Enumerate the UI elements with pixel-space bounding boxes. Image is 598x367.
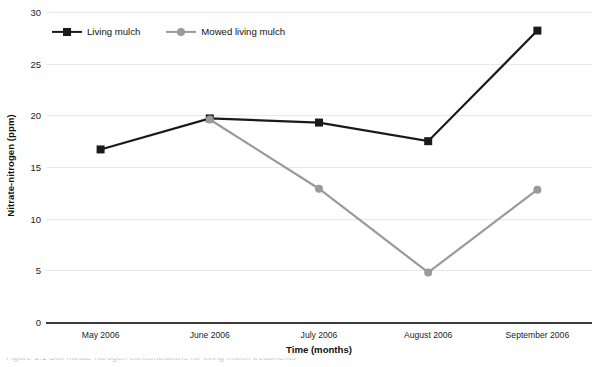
y-axis-title: Nitrate-nitrogen (ppm) — [0, 0, 20, 330]
data-point-circle-marker — [206, 115, 214, 123]
plot-area: 051015202530 May 2006June 2006July 2006A… — [46, 12, 592, 322]
x-tick-label: August 2006 — [404, 330, 452, 340]
legend-square-marker-icon — [63, 28, 71, 36]
x-tick-label: May 2006 — [82, 330, 120, 340]
x-tick-label: June 2006 — [190, 330, 230, 340]
y-tick-label: 25 — [30, 58, 41, 69]
y-tick-label: 0 — [36, 317, 41, 328]
chart-legend: Living mulchMowed living mulch — [52, 26, 285, 37]
legend-entry[interactable]: Mowed living mulch — [166, 26, 285, 37]
legend-circle-marker-icon — [177, 28, 185, 36]
data-point-square-marker — [315, 119, 323, 127]
legend-swatch-icon — [166, 26, 196, 37]
data-point-circle-marker — [424, 268, 432, 276]
series-line — [210, 119, 538, 272]
y-tick-label: 20 — [30, 110, 41, 121]
data-point-square-marker — [424, 137, 432, 145]
legend-label: Mowed living mulch — [201, 26, 285, 37]
data-point-square-marker — [533, 27, 541, 35]
x-tick-label: July 2006 — [301, 330, 338, 340]
y-axis-title-label: Nitrate-nitrogen (ppm) — [5, 114, 16, 216]
y-tick-label: 30 — [30, 7, 41, 18]
data-point-circle-marker — [315, 185, 323, 193]
y-tick-label: 10 — [30, 213, 41, 224]
data-point-square-marker — [97, 145, 105, 153]
x-axis-line — [46, 322, 592, 324]
x-axis-title: Time (months) — [46, 344, 592, 355]
legend-entry[interactable]: Living mulch — [52, 26, 140, 37]
series-plot — [46, 12, 592, 322]
figure-caption: Figure 1.1 Soil nitrate-nitrogen concent… — [0, 358, 598, 367]
legend-swatch-icon — [52, 26, 82, 37]
legend-label: Living mulch — [87, 26, 140, 37]
y-tick-label: 15 — [30, 162, 41, 173]
y-tick-label: 5 — [36, 265, 41, 276]
chart-figure: Nitrate-nitrogen (ppm) 051015202530 May … — [0, 0, 598, 367]
data-point-circle-marker — [533, 186, 541, 194]
series-line — [101, 31, 538, 150]
x-tick-label: September 2006 — [506, 330, 570, 340]
figure-caption-text: Figure 1.1 Soil nitrate-nitrogen concent… — [6, 358, 598, 362]
